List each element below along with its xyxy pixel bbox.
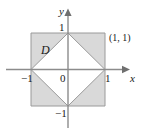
region-label-d: D xyxy=(41,44,50,56)
x-axis-arrow-icon xyxy=(122,66,130,73)
diagram-canvas xyxy=(0,0,144,131)
y-axis-arrow-icon xyxy=(64,9,71,17)
x-axis-label: x xyxy=(130,73,135,84)
x-tick-label-pos-one: 1 xyxy=(105,73,111,84)
point-label-one-one: (1, 1) xyxy=(109,33,131,43)
y-axis-label: y xyxy=(59,6,64,17)
y-tick-label-neg-one: −1 xyxy=(55,108,67,119)
y-tick-label-pos-one: 1 xyxy=(59,22,65,33)
origin-label: 0 xyxy=(60,73,66,84)
math-figure-region-d: D (1, 1) 0 y x −1 1 1 −1 xyxy=(0,0,144,131)
x-tick-label-neg-one: −1 xyxy=(21,73,33,84)
